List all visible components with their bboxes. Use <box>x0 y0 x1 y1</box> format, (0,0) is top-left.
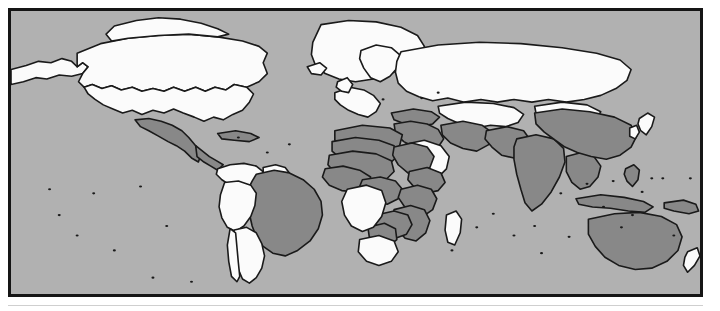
island-speck-17 <box>641 191 644 193</box>
island-speck-10 <box>475 226 478 228</box>
island-speck-9 <box>450 249 453 251</box>
island-speck-7 <box>266 151 269 153</box>
island-speck-13 <box>540 252 543 254</box>
island-speck-1 <box>76 234 79 236</box>
island-speck-27 <box>612 180 615 182</box>
island-speck-18 <box>661 177 664 179</box>
island-speck-19 <box>672 234 675 236</box>
island-speck-20 <box>689 177 692 179</box>
island-speck-0 <box>58 214 61 216</box>
world-map-svg <box>11 11 700 294</box>
island-speck-12 <box>512 234 515 236</box>
island-speck-5 <box>190 281 193 283</box>
island-speck-21 <box>48 188 51 190</box>
island-speck-8 <box>288 143 291 145</box>
island-speck-2 <box>92 192 95 194</box>
island-speck-28 <box>631 214 634 216</box>
island-speck-15 <box>602 206 605 208</box>
island-speck-30 <box>585 183 588 185</box>
island-speck-26 <box>437 92 440 94</box>
figure-page <box>0 0 720 311</box>
map-frame <box>8 8 703 297</box>
island-speck-24 <box>382 98 385 100</box>
island-speck-31 <box>559 192 562 194</box>
country-region-canada[interactable] <box>77 34 267 91</box>
island-speck-23 <box>165 225 168 227</box>
island-speck-25 <box>420 97 423 99</box>
caption-strip <box>8 300 128 304</box>
page-baseline-rule <box>8 305 703 306</box>
island-speck-16 <box>620 226 623 228</box>
island-speck-6 <box>237 136 240 138</box>
world-map-canvas[interactable] <box>11 11 700 294</box>
island-speck-14 <box>568 236 571 238</box>
island-speck-4 <box>151 277 154 279</box>
island-speck-32 <box>533 225 536 227</box>
island-speck-29 <box>650 177 653 179</box>
island-speck-11 <box>492 213 495 215</box>
island-speck-3 <box>113 249 116 251</box>
island-speck-22 <box>139 185 142 187</box>
